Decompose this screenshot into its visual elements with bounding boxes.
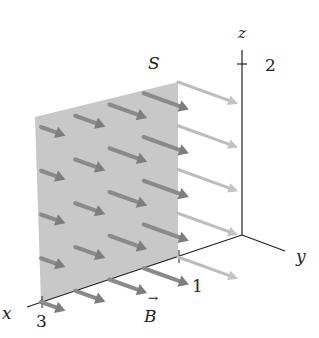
- field-arrow: [110, 280, 148, 296]
- x-axis-label: x: [2, 303, 12, 323]
- y-tick-label: 1: [192, 276, 203, 296]
- field-arrow: [178, 126, 238, 149]
- field-arrow: [75, 291, 105, 304]
- z-tick-label: 2: [265, 55, 276, 75]
- surface-s: [35, 82, 178, 302]
- field-arrow: [144, 268, 189, 287]
- diagram-canvas: z 2 S y 1 x 3 B →: [0, 0, 319, 338]
- z-axis-label: z: [237, 24, 246, 42]
- x-tick-label: 3: [36, 311, 47, 331]
- field-label: B: [143, 306, 157, 326]
- field-arrow: [178, 213, 238, 236]
- surface-label: S: [148, 53, 160, 73]
- field-arrow: [178, 257, 238, 280]
- vector-field-diagram: z 2 S y 1 x 3 B →: [0, 0, 319, 338]
- field-vector-arrow-accent: →: [148, 291, 158, 305]
- y-axis: [242, 235, 285, 251]
- field-arrow: [178, 170, 238, 193]
- field-arrow: [178, 82, 238, 105]
- y-axis-label: y: [295, 246, 306, 266]
